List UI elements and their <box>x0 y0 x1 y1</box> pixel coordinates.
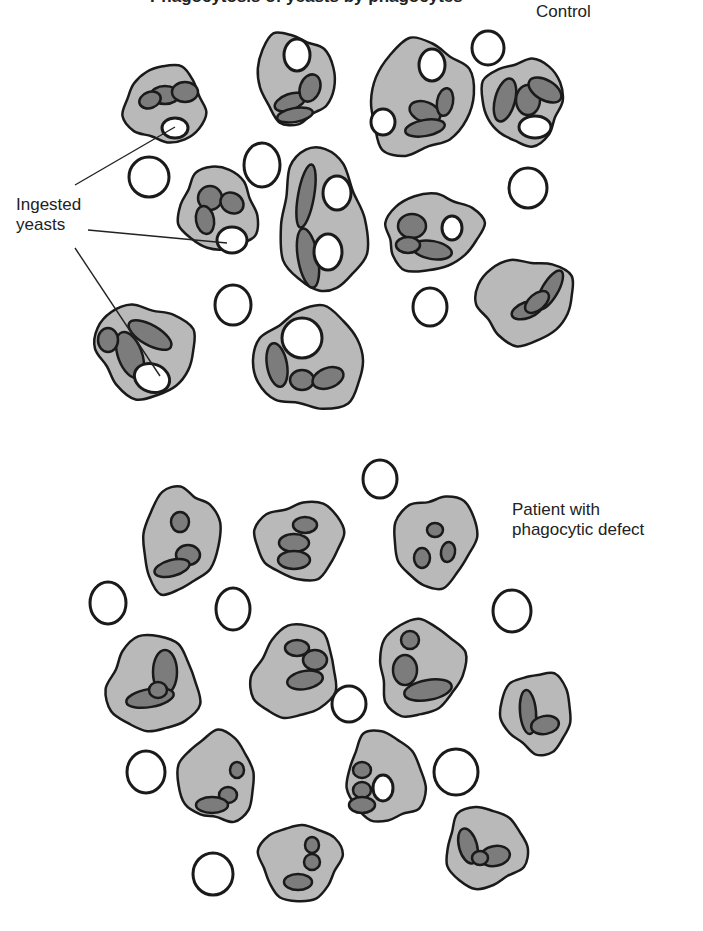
nucleus-lobe <box>293 517 317 533</box>
nucleus-lobe <box>353 782 371 798</box>
nucleus-lobe <box>305 837 319 853</box>
free-yeast <box>216 588 250 630</box>
phagocyte-cell <box>346 731 425 822</box>
label-control: Control <box>536 2 591 22</box>
nucleus-lobe <box>230 762 244 778</box>
nucleus-lobe <box>401 631 419 649</box>
ingested-yeast <box>442 216 462 240</box>
phagocyte-cell <box>446 807 528 889</box>
ingested-yeast <box>282 318 322 358</box>
free-yeast <box>193 853 233 895</box>
nucleus-lobe <box>427 523 443 537</box>
phagocyte-cell <box>177 729 253 822</box>
free-yeast <box>244 143 280 187</box>
ingested-yeast <box>314 234 342 270</box>
nucleus-lobe <box>353 762 371 778</box>
cell-cytoplasm <box>250 624 336 718</box>
nucleus-lobe <box>278 551 310 569</box>
free-yeast <box>434 749 478 795</box>
nucleus-lobe <box>290 370 314 390</box>
nucleus-lobe <box>393 655 417 685</box>
phagocytosis-illustration <box>0 0 703 931</box>
phagocyte-cell <box>475 260 573 347</box>
label-yeasts: yeasts <box>16 215 65 235</box>
phagocyte-cell <box>371 37 474 156</box>
nucleus-lobe <box>349 797 375 813</box>
free-yeast <box>413 288 447 326</box>
nucleus-lobe <box>172 82 198 102</box>
nucleus-lobe <box>304 854 320 870</box>
panel-control <box>94 31 573 409</box>
nucleus-lobe <box>284 874 312 890</box>
free-yeast <box>472 31 504 65</box>
nucleus-lobe <box>196 797 228 813</box>
nucleus-lobe <box>398 214 426 238</box>
cell-cytoplasm <box>394 497 477 590</box>
ingested-yeast <box>162 118 188 138</box>
label-patient-line2: phagocytic defect <box>512 520 644 540</box>
figure-canvas: Phagocytosis of yeasts by phagocytes Con… <box>0 0 703 931</box>
phagocyte-cell <box>481 58 565 146</box>
free-yeast <box>90 582 126 624</box>
panel-patient <box>90 460 571 901</box>
phagocyte-cell <box>122 65 206 143</box>
phagocyte-cell <box>394 497 477 590</box>
phagocyte-cell <box>281 147 368 291</box>
phagocyte-cell <box>380 619 466 717</box>
phagocyte-cell <box>105 635 200 731</box>
ingested-yeast <box>519 116 551 138</box>
free-yeast <box>215 285 251 325</box>
ingested-yeast <box>323 176 351 210</box>
phagocyte-cell <box>250 624 336 718</box>
ingested-yeast <box>217 227 247 253</box>
nucleus-lobe <box>396 237 420 253</box>
label-patient-line1: Patient with <box>512 500 600 520</box>
free-yeast <box>493 590 531 632</box>
nucleus-lobe <box>303 650 327 670</box>
ingested-yeast <box>371 109 395 135</box>
phagocyte-cell <box>258 825 343 901</box>
free-yeast <box>363 460 397 498</box>
cell-cytoplasm <box>143 486 221 595</box>
ingested-yeast <box>419 49 445 81</box>
phagocyte-cell <box>143 486 221 595</box>
nucleus-lobe <box>98 328 118 352</box>
ingested-yeast <box>373 775 393 801</box>
free-yeast <box>127 751 165 793</box>
phagocyte-cell <box>254 502 344 581</box>
phagocyte-cell <box>253 305 363 409</box>
ingested-yeast <box>284 39 310 71</box>
phagocyte-cell <box>500 673 571 756</box>
nucleus-lobe <box>149 682 167 698</box>
phagocyte-cell <box>385 193 485 271</box>
nucleus-lobe <box>279 534 309 552</box>
free-yeast <box>509 168 547 208</box>
nucleus-lobe <box>414 548 430 568</box>
nucleus-lobe <box>171 512 189 532</box>
free-yeast <box>129 157 169 197</box>
phagocyte-cell <box>258 32 335 125</box>
free-yeast <box>332 686 366 722</box>
nucleus-lobe <box>472 851 488 865</box>
label-ingested: Ingested <box>16 195 81 215</box>
